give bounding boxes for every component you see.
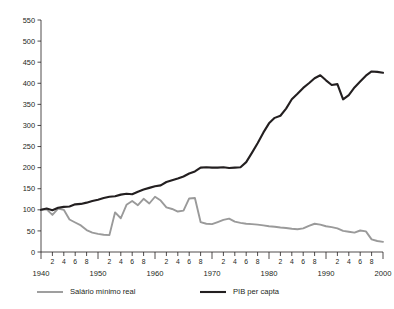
x-major-tick-label: 1980 (261, 269, 278, 278)
x-major-tick-label: 1950 (90, 269, 107, 278)
x-minor-tick-label: 2 (51, 258, 55, 265)
x-major-tick-label: 1970 (204, 269, 221, 278)
x-minor-tick-label: 6 (130, 258, 134, 265)
x-minor-tick-label: 4 (119, 258, 123, 265)
x-major-tick-label: 1940 (33, 269, 50, 278)
y-tick-label: 200 (23, 163, 35, 172)
x-minor-tick-label: 6 (73, 258, 77, 265)
x-minor-tick-label: 2 (279, 258, 283, 265)
y-tick-label: 350 (23, 100, 35, 109)
x-minor-tick-label: 6 (187, 258, 191, 265)
series-line-pib-per-capta (41, 71, 383, 210)
series-line-salario-minimo-real (41, 197, 383, 242)
line-chart: 050100150200250300350400450500550 246824… (0, 0, 394, 309)
x-minor-tick-label: 4 (176, 258, 180, 265)
y-tick-label: 550 (23, 16, 35, 25)
x-minor-tick-label: 2 (222, 258, 226, 265)
x-minor-tick-label: 4 (347, 258, 351, 265)
y-tick-label: 0 (31, 248, 35, 257)
y-tick-label: 100 (23, 205, 35, 214)
x-axis-minor-labels: 246824682468246824682468 (51, 258, 374, 265)
x-axis-group: 246824682468246824682468 194019501960197… (33, 252, 392, 278)
y-tick-label: 50 (27, 227, 35, 236)
y-axis-group: 050100150200250300350400450500550 (23, 16, 41, 257)
x-minor-tick-label: 8 (85, 258, 89, 265)
chart-container: 050100150200250300350400450500550 246824… (0, 0, 394, 309)
x-minor-tick-label: 8 (199, 258, 203, 265)
x-minor-tick-label: 4 (233, 258, 237, 265)
y-tick-label: 150 (23, 184, 35, 193)
x-minor-tick-label: 6 (301, 258, 305, 265)
x-minor-tick-label: 4 (290, 258, 294, 265)
x-minor-tick-label: 8 (313, 258, 317, 265)
y-tick-label: 450 (23, 58, 35, 67)
x-minor-tick-label: 2 (336, 258, 340, 265)
x-minor-tick-label: 6 (358, 258, 362, 265)
x-minor-tick-label: 2 (108, 258, 112, 265)
x-minor-tick-label: 8 (256, 258, 260, 265)
x-axis-major-ticks (41, 252, 383, 259)
data-series-group (41, 71, 383, 241)
y-axis-tick-labels: 050100150200250300350400450500550 (23, 16, 35, 257)
x-minor-tick-label: 4 (62, 258, 66, 265)
x-minor-tick-label: 2 (165, 258, 169, 265)
y-tick-label: 400 (23, 79, 35, 88)
x-major-tick-label: 1960 (147, 269, 164, 278)
y-tick-label: 250 (23, 142, 35, 151)
x-major-tick-label: 1990 (318, 269, 335, 278)
x-minor-tick-label: 8 (142, 258, 146, 265)
x-minor-tick-label: 6 (244, 258, 248, 265)
legend-label-pib-per-capta: PIB per capta (233, 287, 280, 296)
x-major-tick-label: 2000 (375, 269, 392, 278)
y-tick-label: 500 (23, 37, 35, 46)
legend-label-salario-minimo-real: Salário mínimo real (70, 287, 136, 296)
chart-legend: Salário mínimo realPIB per capta (37, 287, 280, 296)
x-axis-major-labels: 1940195019601970198019902000 (33, 269, 392, 278)
y-axis-ticks (38, 20, 42, 252)
x-minor-tick-label: 8 (370, 258, 374, 265)
y-tick-label: 300 (23, 121, 35, 130)
